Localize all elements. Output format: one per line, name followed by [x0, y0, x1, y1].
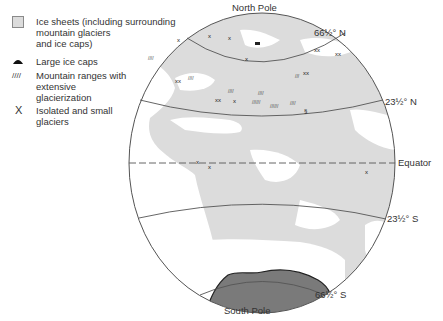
equator-label: Equator [398, 157, 431, 168]
svg-text:x: x [228, 35, 231, 41]
svg-text:////: //// [188, 75, 194, 81]
svg-text://////: ////// [252, 99, 261, 105]
svg-text:x: x [196, 159, 199, 165]
svg-text:xx: xx [215, 97, 221, 103]
svg-text:xx: xx [175, 78, 181, 84]
svg-text:////: //// [228, 88, 234, 94]
svg-text:xx: xx [335, 51, 341, 57]
antarctic-circle-label: 66½° S [315, 289, 346, 300]
svg-text:////: //// [148, 55, 154, 61]
svg-text:x: x [365, 169, 368, 175]
svg-text:///: /// [295, 73, 300, 79]
hatch-icon: //// [12, 70, 32, 81]
tropic-of-cancer-label: 23½° N [385, 96, 417, 107]
svg-text:xx: xx [303, 70, 309, 76]
ice-sheet-swatch-icon [12, 16, 32, 28]
svg-text:x: x [245, 56, 248, 62]
svg-text://////: ////// [270, 103, 279, 109]
svg-text:////: //// [258, 90, 264, 96]
arctic-circle-label: 66½° N [314, 27, 346, 38]
svg-text:////: //// [290, 100, 296, 106]
tropic-of-capricorn-label: 23½° S [387, 213, 418, 224]
svg-text:§: § [304, 108, 307, 114]
svg-text:x: x [208, 164, 211, 170]
ice-cap-dome-icon [12, 56, 32, 67]
svg-text:x: x [177, 37, 180, 43]
x-mark-icon: X [15, 105, 35, 116]
south-pole-label: South Pole [224, 305, 270, 316]
svg-text:x: x [233, 98, 236, 104]
svg-text:xx: xx [314, 47, 320, 53]
north-pole-label: North Pole [232, 2, 277, 13]
svg-text:x: x [208, 33, 211, 39]
